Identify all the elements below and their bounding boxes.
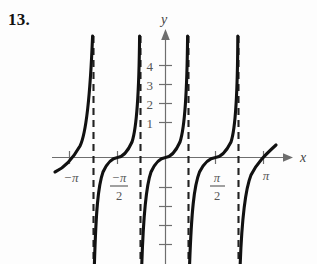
x-tick-label-pi-over-2-denominator: 2 — [214, 189, 220, 203]
y-tick-label-1: 1 — [147, 116, 154, 131]
y-axis-arrow-icon — [161, 29, 170, 40]
curve-branch-left-partial — [55, 36, 93, 172]
curve-branch-3 — [190, 36, 238, 264]
x-tick-label-pi: π — [263, 168, 270, 183]
figure-page: 13. — [0, 0, 317, 264]
x-axis-name-label: x — [299, 150, 307, 165]
x-tick-label-neg-pi-over-2-numerator: −π — [112, 171, 127, 185]
x-tick-label-neg-pi-over-2-denominator: 2 — [116, 189, 122, 203]
curve-branch-1 — [94, 36, 139, 264]
x-tick-label-pi-over-2-numerator: π — [214, 171, 221, 185]
graph-figure: 4 3 2 1 −π −π 2 π 2 π y x — [0, 0, 317, 264]
x-tick-label-neg-pi: −π — [63, 170, 79, 185]
y-axis-name-label: y — [159, 12, 168, 27]
curve-branch-right-partial — [240, 145, 276, 264]
y-tick-label-3: 3 — [147, 78, 154, 93]
y-tick-labels: 4 3 2 1 — [147, 59, 154, 131]
x-tick-label-pi-over-2: π 2 — [210, 171, 225, 203]
y-tick-label-4: 4 — [147, 59, 154, 74]
y-tick-label-2: 2 — [147, 97, 154, 112]
x-tick-label-neg-pi-over-2: −π 2 — [110, 171, 128, 203]
axes-group — [52, 29, 293, 264]
x-axis-arrow-icon — [283, 153, 293, 162]
